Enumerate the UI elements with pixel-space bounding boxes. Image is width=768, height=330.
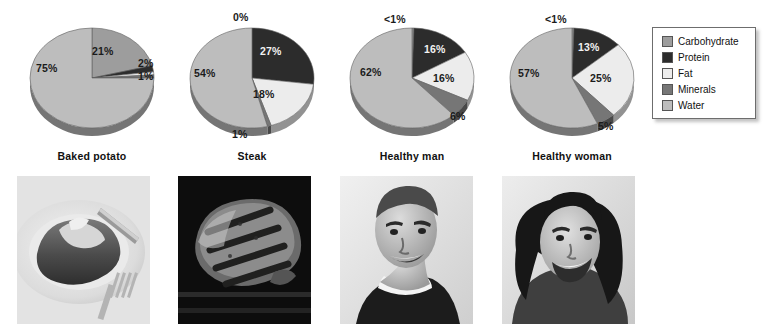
slice-label: 75% <box>36 63 57 74</box>
legend-item-water: Water <box>662 98 755 113</box>
healthy-woman-photo <box>502 176 635 324</box>
legend-item-protein: Protein <box>662 50 755 65</box>
pie-chart-2: <1%16%16%6%62% <box>332 0 492 160</box>
legend-swatch-icon <box>662 84 673 95</box>
pie-chart-1: 0%27%18%1%54% <box>172 0 332 160</box>
category-label-3: Healthy woman <box>492 150 652 162</box>
legend-item-fat: Fat <box>662 66 755 81</box>
slice-label: 25% <box>590 73 611 84</box>
legend-label: Water <box>678 101 704 111</box>
slice-label: 54% <box>194 68 215 79</box>
slice-label: 2% <box>138 58 153 69</box>
legend-swatch-icon <box>662 68 673 79</box>
slice-label: 0% <box>233 12 248 23</box>
slice-label: 6% <box>450 111 465 122</box>
slice-label: 16% <box>433 73 454 84</box>
category-label-2: Healthy man <box>332 150 492 162</box>
healthy-man-photo <box>340 176 473 324</box>
category-label-0: Baked potato <box>12 150 172 162</box>
legend-swatch-icon <box>662 52 673 63</box>
slice-label: 57% <box>518 68 539 79</box>
legend-label: Fat <box>678 69 692 79</box>
legend-swatch-icon <box>662 36 673 47</box>
legend-swatch-icon <box>662 100 673 111</box>
legend-label: Minerals <box>678 85 716 95</box>
slice-label: 13% <box>578 42 599 53</box>
pie-chart-3: <1%13%25%5%57% <box>492 0 652 160</box>
legend-item-minerals: Minerals <box>662 82 755 97</box>
baked-potato-photo <box>17 176 150 324</box>
slice-label: 5% <box>598 121 613 132</box>
slice-label: 16% <box>424 44 445 55</box>
legend-box: CarbohydrateProteinFatMineralsWater <box>652 27 756 119</box>
category-label-1: Steak <box>172 150 332 162</box>
legend-label: Carbohydrate <box>678 37 739 47</box>
slice-label: 1% <box>232 129 247 140</box>
slice-label: 62% <box>360 67 381 78</box>
slice-label: 27% <box>260 46 281 57</box>
legend-label: Protein <box>678 53 710 63</box>
slice-label: 18% <box>253 89 274 100</box>
pie-svg-2 <box>332 0 492 150</box>
legend-item-carbohydrate: Carbohydrate <box>662 34 755 49</box>
slice-label: 21% <box>92 46 113 57</box>
figure-canvas: 21%2%1%75%Baked potato <box>0 0 768 330</box>
slice-label: <1% <box>545 14 567 25</box>
pie-chart-0: 21%2%1%75% <box>12 0 172 160</box>
slice-label: 1% <box>138 71 153 82</box>
slice-label: <1% <box>384 14 406 25</box>
steak-photo <box>178 176 311 324</box>
pie-svg-3 <box>492 0 652 150</box>
